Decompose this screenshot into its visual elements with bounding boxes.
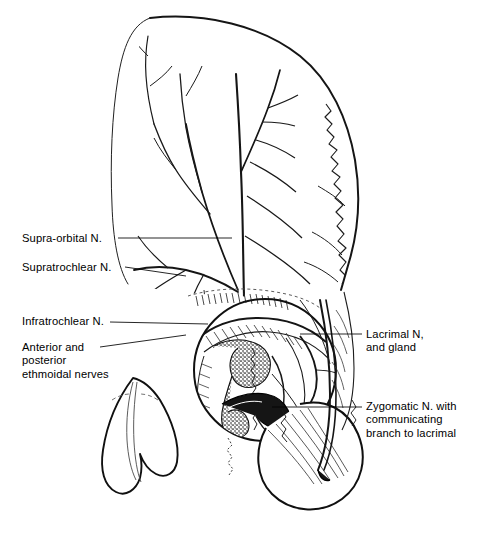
leader-infratrochlear [110, 322, 208, 324]
label-zygomatic-nerve: Zygomatic N. with communicating branch t… [366, 400, 457, 440]
anatomical-figure: Supra-orbital N. Supratrochlear N. Infra… [0, 0, 482, 539]
leader-ethmoidal [100, 335, 186, 347]
label-supraorbital-nerve: Supra-orbital N. [22, 232, 102, 245]
label-infratrochlear-nerve: Infratrochlear N. [22, 315, 104, 328]
label-ethmoidal-nerves: Anterior and posterior ethmoidal nerves [22, 341, 109, 381]
label-lacrimal-nerve-and-gland: Lacrimal N, and gland [366, 328, 424, 355]
label-supratrochlear-nerve: Supratrochlear N. [22, 261, 111, 274]
external-nose [102, 378, 178, 494]
